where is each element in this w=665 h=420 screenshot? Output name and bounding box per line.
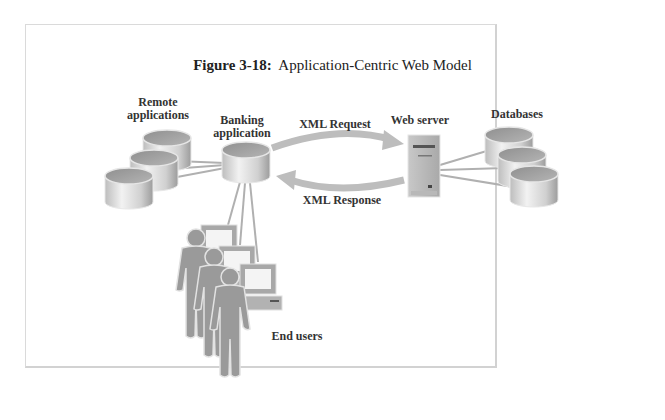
database-cylinder-icon	[222, 142, 270, 183]
xml-request-arrow	[272, 130, 404, 150]
label-banking-application: Banking application	[202, 114, 282, 140]
label-xml-response: XML Response	[292, 194, 392, 207]
label-end-users: End users	[262, 330, 332, 343]
label-line: application	[202, 127, 282, 140]
remote-applications	[105, 130, 191, 209]
databases	[485, 127, 558, 207]
server-tower-icon	[408, 135, 440, 197]
label-xml-request: XML Request	[290, 118, 380, 131]
label-line: applications	[118, 109, 198, 122]
end-users	[176, 225, 282, 377]
label-databases: Databases	[482, 108, 552, 121]
label-web-server: Web server	[380, 114, 460, 127]
xml-response-arrow	[276, 170, 404, 190]
diagram-canvas	[0, 0, 665, 420]
database-cylinder-icon	[105, 168, 153, 209]
database-cylinder-icon	[510, 166, 558, 207]
banking-application	[222, 142, 270, 183]
label-remote-applications: Remote applications	[118, 96, 198, 122]
